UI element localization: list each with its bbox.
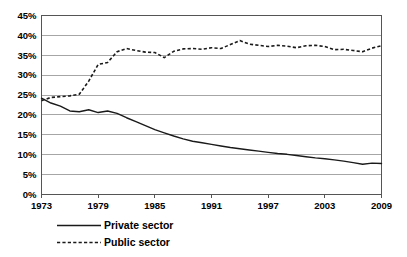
data-series-group: [42, 41, 382, 165]
x-axis-tick-label: 2009: [371, 200, 392, 211]
x-axis-tick-labels: 1973197919851991199720032009: [31, 200, 392, 211]
y-axis-tick-label: 25%: [17, 89, 37, 100]
x-axis-tick-label: 1991: [201, 200, 223, 211]
y-axis-tick-label: 5%: [23, 169, 37, 180]
x-axis-tick-label: 1973: [31, 200, 52, 211]
x-axis-tick-label: 2003: [314, 200, 335, 211]
gridlines: [42, 16, 382, 175]
x-axis-tick-label: 1979: [88, 200, 109, 211]
y-axis-tick-label: 0%: [23, 189, 37, 200]
chart-legend: Private sectorPublic sector: [57, 219, 173, 248]
y-axis-tick-label: 20%: [17, 109, 37, 120]
y-axis-tick-label: 35%: [17, 50, 37, 61]
series-line-private-sector: [42, 98, 382, 164]
chart-container: 0%5%10%15%20%25%30%35%40%45% 19731979198…: [0, 0, 407, 257]
line-chart: 0%5%10%15%20%25%30%35%40%45% 19731979198…: [0, 0, 407, 257]
y-axis-tick-label: 15%: [17, 129, 37, 140]
plot-area-frame: [42, 16, 382, 195]
x-axis-tick-label: 1985: [144, 200, 166, 211]
legend-label-public-sector: Public sector: [104, 236, 170, 248]
y-axis-tick-label: 40%: [17, 30, 37, 41]
y-axis-tick-label: 45%: [17, 10, 37, 21]
x-axis-tick-label: 1997: [258, 200, 279, 211]
legend-label-private-sector: Private sector: [104, 219, 173, 231]
axis-tickmarks: [42, 195, 382, 199]
y-axis-tick-label: 30%: [17, 69, 37, 80]
y-axis-tick-labels: 0%5%10%15%20%25%30%35%40%45%: [17, 10, 37, 200]
y-axis-tick-label: 10%: [17, 149, 37, 160]
series-line-public-sector: [42, 41, 382, 101]
